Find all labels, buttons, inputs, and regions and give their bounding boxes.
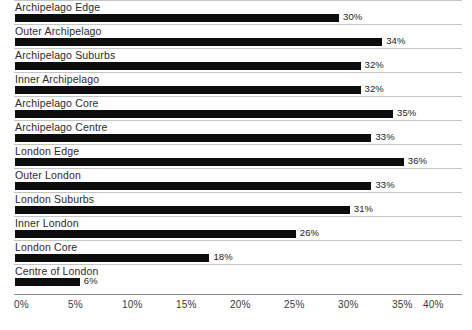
bar-fill bbox=[15, 254, 209, 262]
bar-value-label: 32% bbox=[365, 83, 384, 94]
x-tick-label: 0% bbox=[14, 299, 29, 311]
row-separator-line bbox=[14, 216, 462, 217]
bar-row: Archipelago Edge30% bbox=[0, 0, 472, 24]
bar-fill bbox=[15, 230, 296, 238]
category-label: Inner London bbox=[15, 218, 79, 229]
x-tick-label: 10% bbox=[122, 299, 143, 311]
bar-fill bbox=[15, 38, 382, 46]
x-tick-label: 30% bbox=[338, 299, 359, 311]
bar-track bbox=[15, 14, 464, 22]
bar-row: Inner London26% bbox=[0, 216, 472, 240]
bar-row: Archipelago Centre33% bbox=[0, 120, 472, 144]
bar-fill bbox=[15, 110, 393, 118]
bar-track bbox=[15, 182, 464, 190]
bar-track bbox=[15, 254, 464, 262]
bar-track bbox=[15, 230, 464, 238]
category-label: Archipelago Edge bbox=[15, 2, 100, 13]
category-label: Inner Archipelago bbox=[15, 74, 99, 85]
bar-track bbox=[15, 158, 464, 166]
x-tick-label: 25% bbox=[284, 299, 305, 311]
bar-row: Archipelago Suburbs32% bbox=[0, 48, 472, 72]
bar-value-label: 34% bbox=[386, 35, 405, 46]
bar-row: Centre of London6% bbox=[0, 264, 472, 288]
bar-value-label: 32% bbox=[365, 59, 384, 70]
bar-row: Outer London33% bbox=[0, 168, 472, 192]
bar-row: London Edge36% bbox=[0, 144, 472, 168]
bar-value-label: 30% bbox=[343, 11, 362, 22]
category-label: Archipelago Centre bbox=[15, 122, 108, 133]
bar-value-label: 36% bbox=[408, 155, 427, 166]
chart-plot-area: Archipelago Edge30%Outer Archipelago34%A… bbox=[0, 0, 472, 292]
category-label: Outer London bbox=[15, 170, 81, 181]
bar-row: London Suburbs31% bbox=[0, 192, 472, 216]
bar-value-label: 33% bbox=[375, 179, 394, 190]
bar-value-label: 35% bbox=[397, 107, 416, 118]
category-label: London Suburbs bbox=[15, 194, 94, 205]
category-label: Outer Archipelago bbox=[15, 26, 102, 37]
bar-fill bbox=[15, 14, 339, 22]
bar-value-label: 26% bbox=[300, 227, 319, 238]
category-label: Archipelago Suburbs bbox=[15, 50, 115, 61]
bar-value-label: 6% bbox=[84, 275, 98, 286]
x-tick-label: 5% bbox=[68, 299, 83, 311]
bar-fill bbox=[15, 134, 371, 142]
x-axis-tick-labels: 0%5%10%15%20%25%30%35%40% bbox=[0, 299, 472, 315]
bar-row: London Core18% bbox=[0, 240, 472, 264]
bar-row: Archipelago Core35% bbox=[0, 96, 472, 120]
bar-fill bbox=[15, 158, 404, 166]
bar-value-label: 31% bbox=[354, 203, 373, 214]
x-tick-label: 40% bbox=[423, 299, 444, 311]
row-separator-line bbox=[14, 168, 462, 169]
bar-track bbox=[15, 86, 464, 94]
bar-row: Inner Archipelago32% bbox=[0, 72, 472, 96]
x-tick-label: 20% bbox=[230, 299, 251, 311]
horizontal-bar-chart: Archipelago Edge30%Outer Archipelago34%A… bbox=[0, 0, 472, 330]
bar-track bbox=[15, 206, 464, 214]
category-label: London Core bbox=[15, 242, 77, 253]
bar-fill bbox=[15, 278, 80, 286]
x-axis-line bbox=[14, 294, 462, 295]
bar-fill bbox=[15, 206, 350, 214]
bar-track bbox=[15, 134, 464, 142]
bar-value-label: 18% bbox=[213, 251, 232, 262]
bar-fill bbox=[15, 86, 361, 94]
category-label: London Edge bbox=[15, 146, 79, 157]
category-label: Archipelago Core bbox=[15, 98, 99, 109]
bar-fill bbox=[15, 182, 371, 190]
bar-fill bbox=[15, 62, 361, 70]
bar-track bbox=[15, 278, 464, 286]
row-separator-line bbox=[14, 144, 462, 145]
x-tick-label: 15% bbox=[176, 299, 197, 311]
bar-row: Outer Archipelago34% bbox=[0, 24, 472, 48]
x-tick-label: 35% bbox=[392, 299, 413, 311]
bar-value-label: 33% bbox=[375, 131, 394, 142]
row-separator-line bbox=[14, 240, 462, 241]
bar-track bbox=[15, 62, 464, 70]
